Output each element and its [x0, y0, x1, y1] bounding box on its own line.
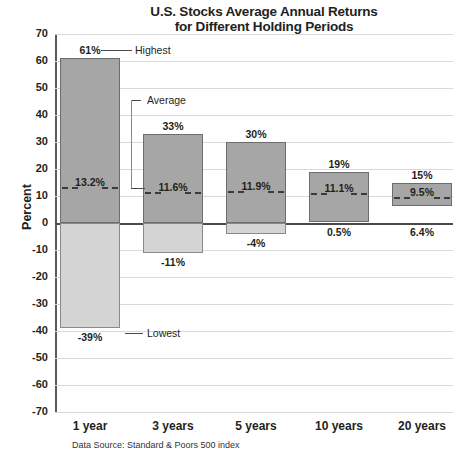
bar-positive	[143, 134, 203, 223]
y-tick-label: -70	[8, 405, 48, 417]
annotation-highest: Highest	[135, 44, 171, 56]
x-tick-label: 3 years	[128, 419, 218, 433]
bar-positive	[60, 58, 120, 223]
chart-title-line-2: for Different Holding Periods	[78, 19, 450, 34]
y-tick-label: 50	[8, 81, 48, 93]
x-tick-label: 1 year	[45, 419, 135, 433]
high-value-label: 30%	[214, 128, 298, 140]
y-tick-label: 10	[8, 189, 48, 201]
high-value-label: 15%	[380, 169, 464, 181]
plot-area: 13.2%61%-39%11.6%33%-11%11.9%30%-4%11.1%…	[55, 34, 453, 412]
low-value-label: 0.5%	[297, 226, 381, 238]
leader-line-highest	[101, 50, 132, 51]
x-tick-label: 20 years	[377, 419, 464, 433]
average-value-label: 11.9%	[226, 180, 286, 192]
average-value-label: 13.2%	[60, 176, 120, 188]
y-tick-label: -60	[8, 378, 48, 390]
low-value-label: -11%	[131, 256, 215, 268]
y-tick-label: 60	[8, 54, 48, 66]
leader-line-lowest	[125, 333, 143, 334]
high-value-label: 33%	[131, 120, 215, 132]
annotation-lowest: Lowest	[147, 327, 180, 339]
average-value-label: 11.6%	[143, 181, 203, 193]
leader-line-average-vertical	[131, 100, 132, 189]
chart-canvas: U.S. Stocks Average Annual Returns for D…	[0, 0, 464, 457]
y-tick-label: 30	[8, 135, 48, 147]
bar-negative	[60, 223, 120, 328]
low-value-label: -4%	[214, 237, 298, 249]
y-tick-label: 20	[8, 162, 48, 174]
y-tick-label: 40	[8, 108, 48, 120]
y-tick-label: -50	[8, 351, 48, 363]
low-value-label: -39%	[48, 331, 132, 343]
annotation-average: Average	[147, 94, 186, 106]
gridline	[55, 358, 453, 359]
gridline	[55, 34, 453, 35]
x-tick-label: 5 years	[211, 419, 301, 433]
average-value-label: 11.1%	[309, 182, 369, 194]
leader-line-average-foot	[131, 188, 145, 189]
gridline	[55, 412, 453, 413]
bar-positive	[309, 172, 369, 222]
y-tick-label: -20	[8, 270, 48, 282]
bar-negative	[143, 223, 203, 253]
y-tick-label: 0	[8, 216, 48, 228]
source-note: Data Source: Standard & Poors 500 index	[72, 440, 240, 450]
bar-negative	[226, 223, 286, 234]
y-tick-label: 70	[8, 27, 48, 39]
chart-title-line-1: U.S. Stocks Average Annual Returns	[78, 4, 450, 19]
x-tick-label: 10 years	[294, 419, 384, 433]
gridline	[55, 385, 453, 386]
high-value-label: 19%	[297, 158, 381, 170]
y-tick-label: -30	[8, 297, 48, 309]
y-tick-label: -40	[8, 324, 48, 336]
leader-line-average-tick	[131, 100, 141, 101]
average-value-label: 9.5%	[392, 186, 452, 198]
y-axis-label: Percent	[20, 162, 34, 252]
chart-title: U.S. Stocks Average Annual Returns for D…	[78, 4, 450, 34]
low-value-label: 6.4%	[380, 226, 464, 238]
y-tick-label: -10	[8, 243, 48, 255]
